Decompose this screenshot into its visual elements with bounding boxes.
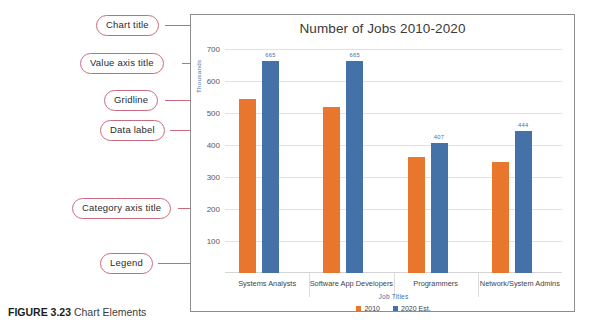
data-label: 665 — [350, 52, 360, 58]
bar[interactable] — [262, 61, 279, 273]
bar[interactable] — [431, 143, 448, 273]
legend-item[interactable]: 2020 Est. — [393, 305, 431, 312]
category-axis-label: Systems Analysts — [238, 279, 296, 288]
value-axis-tick: 200 — [207, 205, 220, 214]
callout-data-label: Data label — [100, 120, 165, 141]
bar-group: 444Network/System Admins — [478, 43, 562, 273]
legend-item[interactable]: 2010 — [356, 305, 380, 312]
callout-value-axis-title: Value axis title — [80, 53, 164, 74]
value-axis-tick: 600 — [207, 77, 220, 86]
category-axis-label: Software App Developers — [310, 279, 393, 288]
plot-area: Thousands 700600500400300200100 665Syste… — [225, 43, 562, 273]
bar-group: 665Systems Analysts — [225, 43, 309, 273]
value-axis-tick: 700 — [207, 45, 220, 54]
bar[interactable] — [515, 131, 532, 273]
value-axis-tick: 500 — [207, 109, 220, 118]
data-label: 444 — [518, 122, 528, 128]
value-axis-tick: 300 — [207, 173, 220, 182]
category-axis-label: Network/System Admins — [480, 279, 560, 288]
legend-label: 2010 — [364, 305, 380, 312]
chart-container[interactable]: Number of Jobs 2010-2020 Thousands 70060… — [190, 14, 575, 312]
callout-category-axis-title: Category axis title — [72, 198, 171, 219]
bar[interactable] — [408, 157, 425, 273]
legend-swatch-icon — [393, 306, 398, 311]
value-axis-title: Thousands — [195, 60, 202, 93]
bar[interactable] — [346, 61, 363, 273]
value-axis-tick: 100 — [207, 237, 220, 246]
category-axis-label: Programmers — [413, 279, 458, 288]
figure-caption-label: FIGURE 3.23 — [8, 306, 71, 318]
bar-group: 407Programmers — [394, 43, 478, 273]
figure-page: Chart title Value axis title Gridline Da… — [0, 0, 590, 332]
legend-swatch-icon — [356, 306, 361, 311]
chart-legend[interactable]: 20102020 Est. — [225, 305, 562, 312]
category-axis-title: Job Titles — [225, 293, 562, 300]
value-axis-tick: 400 — [207, 141, 220, 150]
figure-caption: FIGURE 3.23 Chart Elements — [8, 306, 146, 318]
data-label: 407 — [434, 134, 444, 140]
chart-title: Number of Jobs 2010-2020 — [191, 21, 574, 36]
bar[interactable] — [323, 107, 340, 273]
bar-group: 665Software App Developers — [309, 43, 393, 273]
callout-gridline: Gridline — [104, 90, 158, 111]
callout-legend: Legend — [100, 253, 153, 274]
figure-caption-text: Chart Elements — [71, 306, 146, 318]
bar[interactable] — [239, 99, 256, 273]
legend-label: 2020 Est. — [401, 305, 431, 312]
data-label: 665 — [265, 52, 275, 58]
callout-chart-title: Chart title — [96, 15, 159, 36]
bar[interactable] — [492, 162, 509, 273]
